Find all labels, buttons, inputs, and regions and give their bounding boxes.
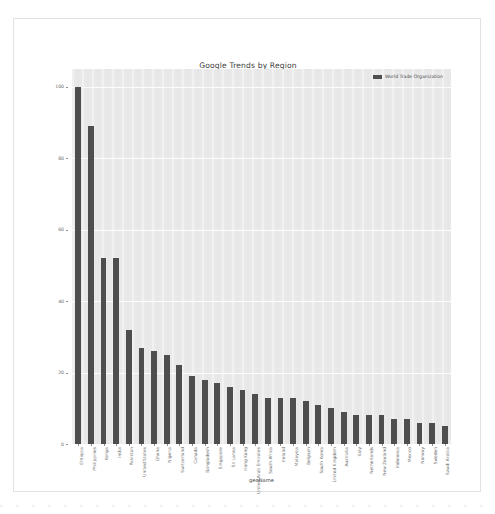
legend-swatch-icon: [373, 75, 382, 79]
x-tick-mark: [167, 444, 168, 446]
bar: [328, 408, 334, 444]
x-tick-mark: [230, 444, 231, 446]
x-tick-mark: [243, 444, 244, 446]
x-axis: EthiopiaPhilippinesKenyaIndiaPakistanUni…: [72, 444, 451, 494]
x-tick-mark: [280, 444, 281, 446]
x-tick-label: Netherlands: [370, 447, 374, 474]
bar: [101, 258, 107, 444]
x-tick-mark: [129, 444, 130, 446]
legend-label: World Trade Organization: [385, 74, 443, 79]
x-tick-label: Indonesia: [396, 447, 400, 468]
x-tick-label: South Korea: [320, 447, 324, 474]
x-tick-mark: [255, 444, 256, 446]
y-tick-mark: [66, 230, 68, 231]
x-tick-mark: [205, 444, 206, 446]
x-tick-mark: [293, 444, 294, 446]
x-tick-label: Nigeria: [168, 447, 172, 463]
x-tick-label: Sri Lanka: [232, 447, 236, 467]
x-tick-label: Canada: [194, 447, 198, 464]
x-tick-label: United States: [143, 447, 147, 477]
x-tick-label: India: [118, 447, 122, 458]
bar: [176, 365, 182, 444]
x-tick-label: Philippines: [93, 447, 97, 471]
x-tick-mark: [407, 444, 408, 446]
x-tick-mark: [432, 444, 433, 446]
bar: [214, 383, 220, 444]
y-tick-mark: [66, 444, 68, 445]
bar: [252, 394, 258, 444]
y-tick-mark: [66, 158, 68, 159]
x-tick-label: Italy: [358, 447, 362, 457]
x-tick-label: Malaysia: [295, 447, 299, 466]
bar: [113, 258, 119, 444]
x-tick-mark: [445, 444, 446, 446]
x-tick-mark: [192, 444, 193, 446]
x-tick-label: Norway: [421, 447, 425, 464]
y-tick-label: 40: [58, 299, 64, 304]
y-tick-mark: [66, 301, 68, 302]
page-root: Google Trends by Region 020406080100 Wor…: [0, 0, 495, 514]
bar: [164, 355, 170, 444]
y-tick-mark: [66, 87, 68, 88]
x-axis-title: geoName: [72, 477, 451, 483]
bar: [126, 330, 132, 444]
y-tick-label: 60: [58, 227, 64, 232]
bar: [75, 87, 81, 444]
x-tick-label: Ireland: [282, 447, 286, 462]
bar: [139, 348, 145, 444]
bar: [303, 401, 309, 444]
bar: [391, 419, 397, 444]
bar: [429, 423, 435, 444]
x-tick-mark: [268, 444, 269, 446]
x-tick-mark: [344, 444, 345, 446]
bar: [227, 387, 233, 444]
bar: [366, 415, 372, 444]
bar: [151, 351, 157, 444]
bar: [404, 419, 410, 444]
x-tick-label: Saudi Arabia: [446, 447, 450, 475]
bar: [278, 398, 284, 444]
x-tick-label: Sweden: [434, 447, 438, 464]
x-tick-mark: [78, 444, 79, 446]
x-tick-mark: [382, 444, 383, 446]
bar-series: [72, 69, 451, 444]
bar: [189, 376, 195, 444]
x-tick-mark: [331, 444, 332, 446]
bar: [442, 426, 448, 444]
x-tick-label: Belgium: [307, 447, 311, 465]
bar: [265, 398, 271, 444]
y-axis: 020406080100: [14, 69, 70, 444]
x-tick-label: Pakistan: [130, 447, 134, 465]
page-bottom-artifacts: [0, 500, 495, 514]
y-tick-label: 0: [61, 442, 64, 447]
chart-card: Google Trends by Region 020406080100 Wor…: [13, 18, 481, 492]
y-tick-label: 20: [58, 370, 64, 375]
x-tick-label: Kenya: [105, 447, 109, 460]
bar: [341, 412, 347, 444]
x-tick-label: Ethiopia: [80, 447, 84, 465]
x-tick-label: Switzerland: [181, 447, 185, 473]
x-tick-mark: [141, 444, 142, 446]
bar: [290, 398, 296, 444]
plot-area: World Trade Organization: [72, 69, 451, 444]
x-tick-label: Bangladesh: [206, 447, 210, 473]
x-tick-label: Australia: [345, 447, 349, 466]
y-tick-label: 100: [55, 84, 64, 89]
bar: [240, 390, 246, 444]
bar: [202, 380, 208, 444]
x-tick-label: United Arab Emirates: [257, 447, 261, 494]
x-tick-label: Mexico: [408, 447, 412, 462]
x-tick-mark: [369, 444, 370, 446]
bar: [353, 415, 359, 444]
x-tick-mark: [306, 444, 307, 446]
x-tick-mark: [394, 444, 395, 446]
bar: [379, 415, 385, 444]
chart-figure: Google Trends by Region 020406080100 Wor…: [14, 19, 482, 493]
bar: [88, 126, 94, 444]
x-tick-label: New Zealand: [383, 447, 387, 476]
x-tick-mark: [116, 444, 117, 446]
x-tick-mark: [104, 444, 105, 446]
y-tick-mark: [66, 373, 68, 374]
x-tick-label: Hong Kong: [244, 447, 248, 471]
x-tick-mark: [154, 444, 155, 446]
